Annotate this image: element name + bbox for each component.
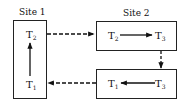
diagram-edges: [0, 0, 188, 106]
